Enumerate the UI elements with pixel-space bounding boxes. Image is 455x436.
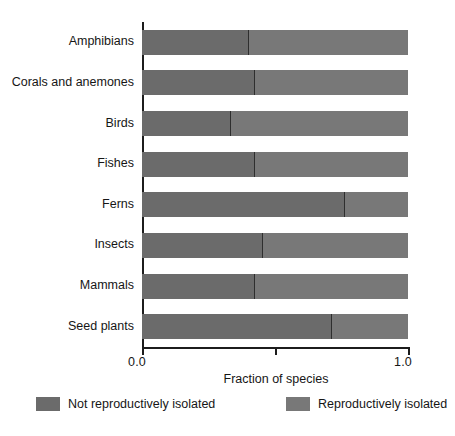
chart-legend: Not reproductively isolatedReproductivel… bbox=[0, 393, 455, 415]
bar-row bbox=[142, 152, 408, 177]
category-label: Seed plants bbox=[0, 319, 134, 333]
bar-segment-not-reproductively-isolated bbox=[142, 233, 262, 258]
bar-segment-not-reproductively-isolated bbox=[142, 192, 344, 217]
bar-segment-divider bbox=[254, 152, 255, 177]
bar-segment-not-reproductively-isolated bbox=[142, 152, 254, 177]
bar-segment-not-reproductively-isolated bbox=[142, 30, 248, 55]
bar-segment-reproductively-isolated bbox=[262, 233, 408, 258]
category-label: Ferns bbox=[0, 197, 134, 211]
bar-row bbox=[142, 192, 408, 217]
legend-swatch-icon bbox=[36, 397, 60, 411]
x-axis-tick bbox=[275, 349, 277, 355]
bar-segment-reproductively-isolated bbox=[248, 30, 408, 55]
legend-item[interactable]: Reproductively isolated bbox=[286, 395, 447, 413]
bar-row bbox=[142, 274, 408, 299]
bar-segment-reproductively-isolated bbox=[254, 274, 408, 299]
bar-segment-divider bbox=[248, 30, 249, 55]
legend-item[interactable]: Not reproductively isolated bbox=[36, 395, 215, 413]
x-axis-tick-label: 1.0 bbox=[394, 355, 412, 369]
bar-segment-divider bbox=[262, 233, 263, 258]
x-axis-title: Fraction of species bbox=[142, 372, 410, 386]
category-label: Amphibians bbox=[0, 34, 134, 48]
category-label: Fishes bbox=[0, 156, 134, 170]
legend-label: Reproductively isolated bbox=[318, 397, 447, 411]
bar-row bbox=[142, 70, 408, 95]
category-label: Corals and anemones bbox=[0, 75, 134, 89]
bar-row bbox=[142, 233, 408, 258]
bar-segment-not-reproductively-isolated bbox=[142, 274, 254, 299]
bar-segment-not-reproductively-isolated bbox=[142, 314, 331, 339]
category-label: Mammals bbox=[0, 278, 134, 292]
stacked-bar-chart: AmphibiansCorals and anemonesBirdsFishes… bbox=[0, 0, 455, 436]
bar-segment-reproductively-isolated bbox=[254, 70, 408, 95]
bar-segment-divider bbox=[344, 192, 345, 217]
legend-swatch-icon bbox=[286, 397, 310, 411]
bar-segment-divider bbox=[254, 70, 255, 95]
bar-segment-divider bbox=[254, 274, 255, 299]
bar-segment-divider bbox=[331, 314, 332, 339]
bar-segment-not-reproductively-isolated bbox=[142, 70, 254, 95]
bar-row bbox=[142, 314, 408, 339]
bar-row bbox=[142, 30, 408, 55]
category-label: Insects bbox=[0, 237, 134, 251]
legend-label: Not reproductively isolated bbox=[68, 397, 215, 411]
bar-segment-divider bbox=[230, 111, 231, 136]
bar-segment-not-reproductively-isolated bbox=[142, 111, 230, 136]
bar-segment-reproductively-isolated bbox=[230, 111, 408, 136]
bar-segment-reproductively-isolated bbox=[344, 192, 408, 217]
bar-segment-reproductively-isolated bbox=[254, 152, 408, 177]
x-axis-tick-label: 0.0 bbox=[128, 355, 146, 369]
bar-segment-reproductively-isolated bbox=[331, 314, 408, 339]
bar-row bbox=[142, 111, 408, 136]
category-label: Birds bbox=[0, 116, 134, 130]
